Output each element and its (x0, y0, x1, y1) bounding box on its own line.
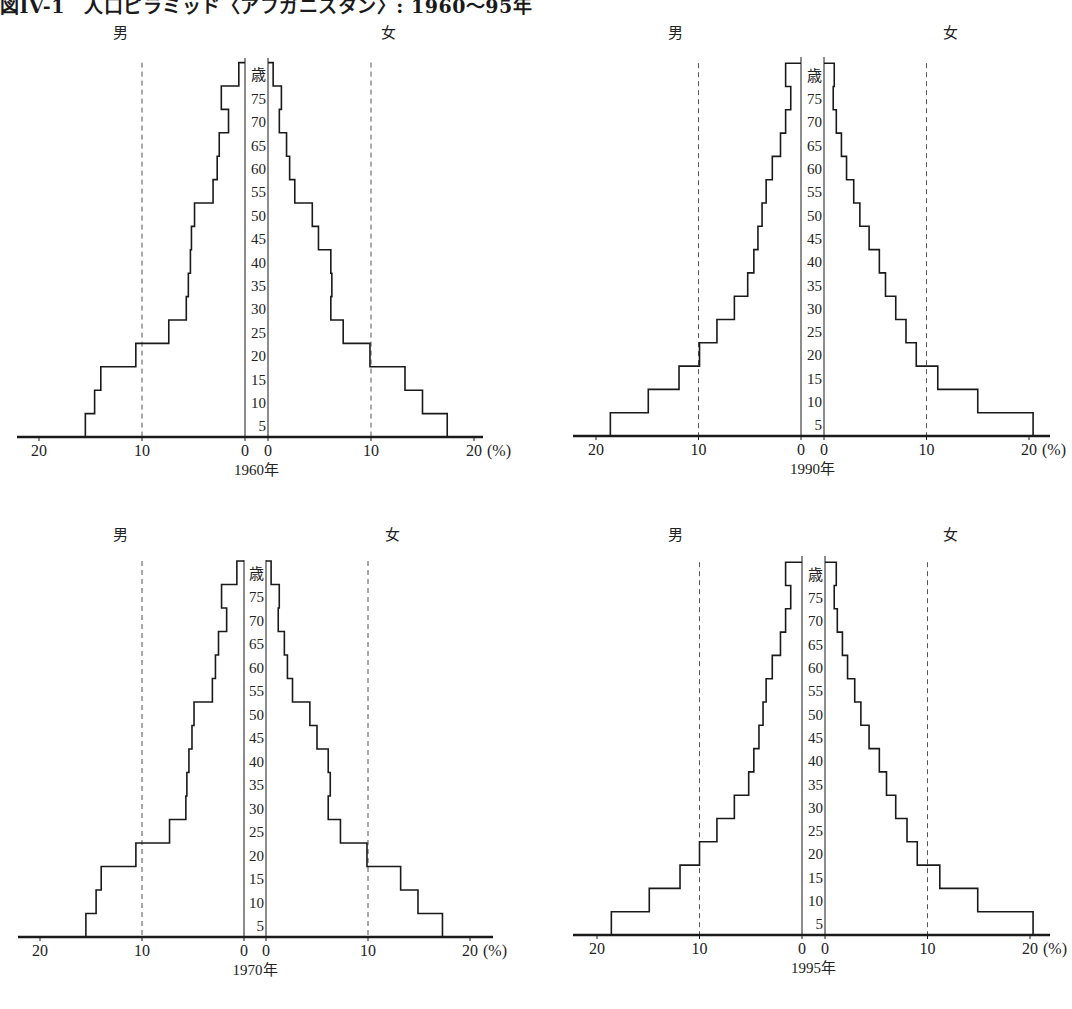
age-label: 60 (249, 660, 264, 676)
age-label: 70 (808, 613, 823, 629)
female-population-steps (824, 63, 1033, 436)
age-label: 70 (807, 114, 822, 130)
age-label: 35 (251, 278, 266, 294)
age-label: 65 (251, 138, 266, 154)
age-label: 35 (807, 278, 822, 294)
age-label: 25 (251, 325, 266, 341)
x-tick-label-male: 0 (798, 940, 806, 957)
x-tick-label-male: 20 (588, 441, 604, 458)
male-label: 男 (113, 526, 128, 544)
percent-unit-label: (%) (483, 942, 507, 960)
male-population-steps (611, 562, 802, 935)
x-tick-label-male: 10 (692, 940, 708, 957)
age-label: 40 (251, 255, 266, 271)
x-tick-label-female: 20 (1021, 441, 1037, 458)
age-label: 10 (249, 895, 264, 911)
female-population-steps (825, 562, 1033, 935)
x-tick-label-male: 0 (241, 442, 249, 459)
age-label: 5 (257, 918, 265, 934)
year-label: 1970年 (233, 962, 278, 978)
x-tick-label-female: 10 (920, 940, 936, 957)
male-label: 男 (668, 526, 683, 544)
age-label: 5 (815, 417, 823, 433)
age-label: 15 (808, 870, 823, 886)
male-population-steps (610, 63, 801, 436)
age-label: 30 (249, 801, 264, 817)
age-label: 65 (808, 637, 823, 653)
age-label: 30 (808, 800, 823, 816)
population-pyramid-figure: 男女51015202530354045505560657075歳20100010… (0, 0, 1072, 1009)
x-tick-label-female: 20 (462, 942, 478, 959)
x-tick-label-male: 10 (691, 441, 707, 458)
age-label: 25 (807, 324, 822, 340)
age-label: 50 (808, 707, 823, 723)
male-label: 男 (668, 24, 683, 42)
age-label: 60 (807, 161, 822, 177)
age-label: 15 (249, 871, 264, 887)
female-label: 女 (943, 24, 958, 42)
age-label: 20 (807, 347, 822, 363)
age-label: 75 (251, 91, 266, 107)
age-label: 55 (808, 683, 823, 699)
female-label: 女 (943, 526, 958, 544)
age-label: 20 (808, 846, 823, 862)
age-label: 15 (807, 371, 822, 387)
age-label: 55 (807, 184, 822, 200)
age-label: 45 (807, 231, 822, 247)
percent-unit-label: (%) (487, 442, 511, 460)
pyramid-panel-1960: 男女51015202530354045505560657075歳20100010… (17, 24, 511, 478)
age-label: 20 (249, 848, 264, 864)
age-label: 40 (249, 754, 264, 770)
age-label: 歳 (808, 567, 823, 583)
x-tick-label-female: 20 (1022, 940, 1038, 957)
age-label: 歳 (807, 68, 822, 84)
age-label: 5 (259, 418, 267, 434)
age-label: 70 (251, 114, 266, 130)
age-label: 10 (808, 893, 823, 909)
age-label: 35 (249, 777, 264, 793)
x-tick-label-female: 0 (821, 940, 829, 957)
x-tick-label-female: 10 (360, 942, 376, 959)
age-label: 歳 (251, 67, 266, 83)
pyramid-panel-1990: 男女51015202530354045505560657075歳20100010… (573, 24, 1066, 477)
age-label: 65 (807, 138, 822, 154)
age-label: 55 (251, 184, 266, 200)
age-label: 50 (251, 208, 266, 224)
age-label: 35 (808, 777, 823, 793)
year-label: 1995年 (791, 960, 836, 976)
pyramid-panel-1970: 男女51015202530354045505560657075歳20100010… (18, 526, 507, 978)
age-label: 70 (249, 613, 264, 629)
year-label: 1960年 (234, 462, 279, 478)
female-population-steps (266, 561, 442, 937)
age-label: 60 (808, 660, 823, 676)
x-tick-label-female: 0 (262, 942, 270, 959)
x-tick-label-male: 0 (797, 441, 805, 458)
x-tick-label-female: 0 (264, 442, 272, 459)
x-tick-label-male: 20 (589, 940, 605, 957)
age-label: 50 (807, 208, 822, 224)
age-label: 30 (807, 301, 822, 317)
age-label: 20 (251, 348, 266, 364)
age-label: 10 (807, 394, 822, 410)
age-label: 75 (807, 91, 822, 107)
age-label: 15 (251, 372, 266, 388)
age-label: 75 (249, 589, 264, 605)
age-label: 55 (249, 683, 264, 699)
x-tick-label-female: 20 (466, 442, 482, 459)
age-label: 60 (251, 161, 266, 177)
age-label: 40 (808, 753, 823, 769)
percent-unit-label: (%) (1043, 940, 1067, 958)
x-tick-label-female: 0 (820, 441, 828, 458)
percent-unit-label: (%) (1042, 441, 1066, 459)
pyramid-panel-1995: 男女51015202530354045505560657075歳20100010… (573, 526, 1067, 976)
x-tick-label-male: 20 (31, 442, 47, 459)
female-label: 女 (381, 24, 396, 42)
age-label: 歳 (249, 566, 264, 582)
age-label: 45 (808, 730, 823, 746)
female-label: 女 (385, 526, 400, 544)
age-label: 65 (249, 636, 264, 652)
male-label: 男 (113, 24, 128, 42)
female-population-steps (268, 63, 447, 437)
x-tick-label-male: 10 (134, 942, 150, 959)
male-population-steps (86, 561, 244, 937)
